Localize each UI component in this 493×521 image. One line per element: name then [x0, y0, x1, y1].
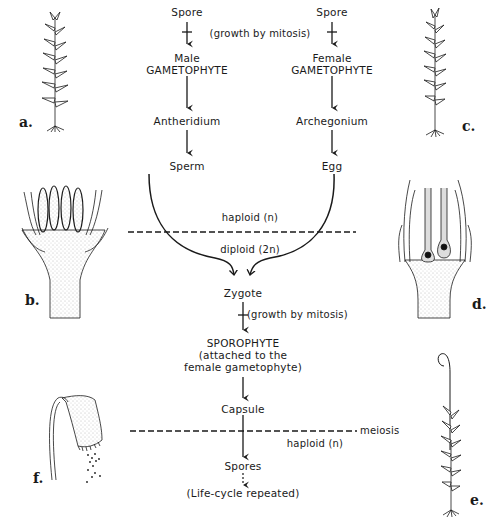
female-spore-label: Spore	[312, 6, 352, 18]
moss-life-cycle-diagram: Spore Male GAMETOPHYTE Antheridium Sperm…	[0, 0, 493, 521]
figure-c-female-gametophyte	[424, 8, 446, 137]
figure-label-a: a.	[19, 114, 33, 130]
life-cycle-repeated-note: (Life-cycle repeated)	[178, 487, 308, 499]
growth-mitosis-note-top: (growth by mitosis)	[200, 28, 320, 40]
figure-label-f: f.	[33, 470, 43, 486]
diploid-label: diploid (2n)	[210, 244, 290, 256]
sperm-curve	[149, 174, 234, 275]
female-gametophyte-label: GAMETOPHYTE	[282, 64, 382, 76]
egg-label: Egg	[312, 160, 352, 172]
antheridium-label: Antheridium	[147, 115, 227, 127]
haploid-label-bottom: haploid (n)	[275, 438, 355, 450]
figure-label-b: b.	[25, 292, 40, 308]
female-label: Female	[292, 52, 372, 64]
sporophyte-label: SPOROPHYTE	[183, 337, 303, 349]
sporophyte-note-line3: female gametophyte)	[178, 361, 308, 373]
sperm-label: Sperm	[157, 160, 217, 172]
male-label: Male	[147, 52, 227, 64]
figure-label-c: c.	[462, 118, 475, 134]
meiosis-label: meiosis	[360, 425, 410, 437]
figure-a-male-gametophyte	[42, 12, 68, 132]
figure-label-e: e.	[470, 492, 484, 508]
male-gametophyte-label: GAMETOPHYTE	[137, 64, 237, 76]
male-spore-label: Spore	[167, 6, 207, 18]
male-arrows	[182, 22, 192, 153]
sporophyte-note-line2: (attached to the	[183, 349, 303, 361]
figure-e-sporophyte	[438, 354, 461, 517]
figure-d-archegonia	[399, 180, 472, 318]
growth-mitosis-note-mid: (growth by mitosis)	[247, 309, 367, 321]
diagram-graphics	[0, 0, 493, 521]
figure-label-d: d.	[472, 296, 487, 312]
archegonium-label: Archegonium	[292, 115, 372, 127]
capsule-label: Capsule	[213, 403, 273, 415]
figure-f-capsule	[50, 396, 102, 483]
zygote-label: Zygote	[213, 287, 273, 299]
female-arrows	[327, 22, 337, 153]
egg-curve	[250, 174, 334, 275]
spores-label: Spores	[213, 460, 273, 472]
haploid-label-top: haploid (n)	[210, 212, 290, 224]
